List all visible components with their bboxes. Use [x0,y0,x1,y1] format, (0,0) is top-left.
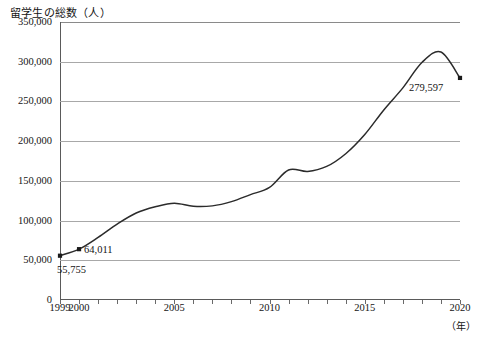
y-tick-label: 350,000 [18,17,52,28]
x-tick-label: 2020 [450,303,471,314]
x-axis-tick-labels: 199920002005201020152020 [0,303,492,319]
x-tick-label: 2010 [259,303,280,314]
x-axis-unit-label: （年） [446,318,476,333]
y-tick-label: 100,000 [18,215,52,226]
data-point-label: 64,011 [84,245,113,256]
x-tick-label: 2015 [354,303,375,314]
y-tick-label: 200,000 [18,136,52,147]
series-markers [58,76,462,258]
x-tick-label: 2000 [69,303,90,314]
series-marker [58,254,62,258]
x-tick-label: 1999 [50,303,71,314]
series-marker [458,76,462,80]
y-axis-tick-labels: 050,000100,000150,000200,000250,000300,0… [0,22,56,300]
data-point-label: 279,597 [409,83,443,94]
plot-area: 55,75564,011279,597 [60,22,460,300]
y-tick-label: 300,000 [18,56,52,67]
series-line-group [60,22,460,300]
y-tick-label: 150,000 [18,176,52,187]
data-point-label: 55,755 [57,265,86,276]
series-line [60,51,460,255]
y-tick-label: 50,000 [23,255,52,266]
y-tick-label: 250,000 [18,96,52,107]
chart-figure: 留学生の総数（人） 050,000100,000150,000200,00025… [0,0,492,340]
x-tick-label: 2005 [164,303,185,314]
series-marker [77,247,81,251]
